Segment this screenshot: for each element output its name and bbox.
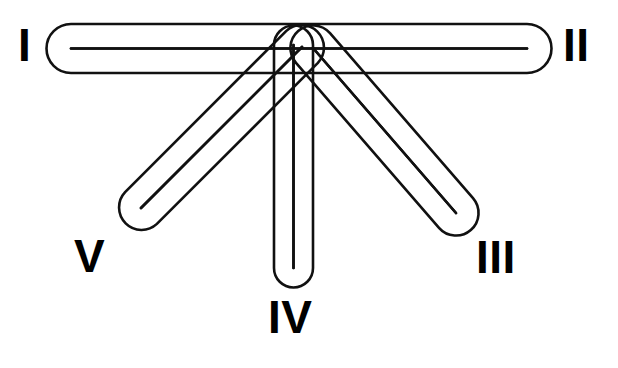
figure-canvas: I II III IV V xyxy=(0,0,618,368)
ray-shape-v-inner xyxy=(141,47,302,208)
ray-label-v: V xyxy=(74,233,105,279)
ray-label-ii: II xyxy=(563,22,590,68)
ray-label-iii: III xyxy=(476,234,516,280)
ray-label-i: I xyxy=(18,22,31,68)
ray-label-iv: IV xyxy=(268,294,312,340)
